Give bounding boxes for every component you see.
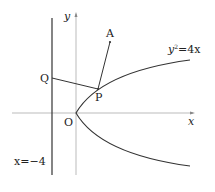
point-A-label: A	[105, 27, 115, 40]
point-A-dot	[109, 41, 111, 43]
segment-PA	[98, 42, 110, 89]
curve-equation-label: y2=4x	[167, 43, 201, 56]
point-P-dot	[97, 88, 99, 90]
origin-label: O	[64, 116, 73, 129]
directrix-label: x=−4	[14, 155, 46, 168]
point-P-label: P	[95, 91, 103, 104]
y-axis-label: y	[63, 10, 71, 23]
point-Q-label: Q	[40, 72, 49, 85]
curve-label-rest: =4x	[178, 43, 201, 56]
x-axis-label: x	[188, 115, 195, 128]
y-axis-arrow-icon	[75, 12, 78, 17]
parabola-diagram: y x A Q P O y2=4x x=−4	[0, 0, 215, 192]
segment-QP	[52, 78, 98, 89]
